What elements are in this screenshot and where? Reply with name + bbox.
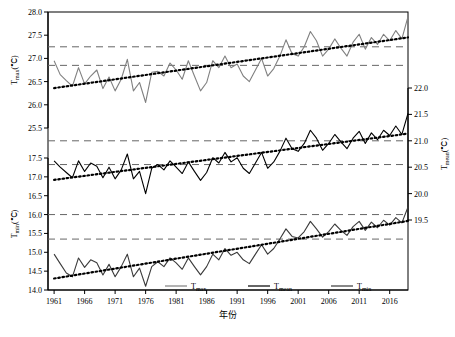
tmin-panel-tick-label: 14.5	[28, 267, 42, 276]
legend-label-Tmax: Tmax	[191, 282, 206, 292]
tmax-panel-tick-label: 27.0	[28, 54, 42, 63]
x-tick-label: 1986	[199, 297, 215, 306]
tmax-panel-series	[54, 17, 408, 103]
tmax-panel-ylabel: Tmax(℃)	[10, 55, 20, 85]
tmax-panel-tick-label: 27.5	[28, 31, 42, 40]
tmean-panel-tick-label: 19.5	[414, 216, 428, 225]
x-tick-label: 1966	[77, 297, 93, 306]
tmean-panel-tick-label: 20.0	[414, 190, 428, 199]
x-tick-label: 2011	[351, 297, 367, 306]
tmin-panel-series	[54, 207, 408, 286]
tmin-panel-tick-label: 17.0	[28, 173, 42, 182]
tmin-panel-ylabel-text: Tmin(℃)	[10, 209, 20, 238]
x-tick-label: 1961	[46, 297, 62, 306]
tmean-panel-ylabel-text: Tmean(℃)	[440, 138, 450, 171]
legend-label-Tmean: Tmean	[274, 282, 292, 292]
x-axis-label: 年份	[219, 309, 237, 320]
x-tick-label: 2016	[382, 297, 398, 306]
tmean-panel-tick-label: 21.0	[414, 137, 428, 146]
tmean-panel-ylabel: Tmean(℃)	[440, 138, 450, 171]
tmin-panel-ylabel: Tmin(℃)	[10, 209, 20, 238]
tmax-panel-trend-line	[54, 37, 408, 88]
plot-frame	[48, 12, 408, 290]
tmin-panel-trend-line	[54, 221, 408, 279]
x-tick-label: 2001	[290, 297, 306, 306]
tmean-panel-tick-label: 20.5	[414, 163, 428, 172]
tmax-panel-tick-label: 28.0	[28, 8, 42, 17]
tmin-panel-tick-label: 16.0	[28, 211, 42, 220]
tmean-panel-series	[54, 113, 408, 193]
tmax-panel-tick-label: 26.0	[28, 101, 42, 110]
tmax-panel-tick-label: 25.5	[28, 124, 42, 133]
tmean-panel-tick-label: 22.0	[414, 84, 428, 93]
x-tick-label: 2006	[321, 297, 337, 306]
tmean-panel-tick-label: 21.5	[414, 110, 428, 119]
tmin-panel-tick-label: 16.5	[28, 192, 42, 201]
x-tick-label: 1971	[107, 297, 123, 306]
legend-label-Tmin: Tmin	[357, 282, 371, 292]
tmin-panel-tick-label: 15.5	[28, 229, 42, 238]
x-tick-label: 1991	[229, 297, 245, 306]
x-tick-label: 1981	[168, 297, 184, 306]
climate-triple-panel-chart: 25.526.026.527.027.528.0Tmax(℃)19.520.02…	[0, 0, 455, 337]
tmin-panel-tick-label: 17.5	[28, 154, 42, 163]
x-tick-label: 1996	[260, 297, 276, 306]
tmax-panel-ylabel-text: Tmax(℃)	[10, 55, 20, 85]
chart-container: 25.526.026.527.027.528.0Tmax(℃)19.520.02…	[0, 0, 455, 337]
tmin-panel-tick-label: 14.0	[28, 286, 42, 295]
x-tick-label: 1976	[138, 297, 154, 306]
tmax-panel-tick-label: 26.5	[28, 78, 42, 87]
tmin-panel-tick-label: 15.0	[28, 248, 42, 257]
